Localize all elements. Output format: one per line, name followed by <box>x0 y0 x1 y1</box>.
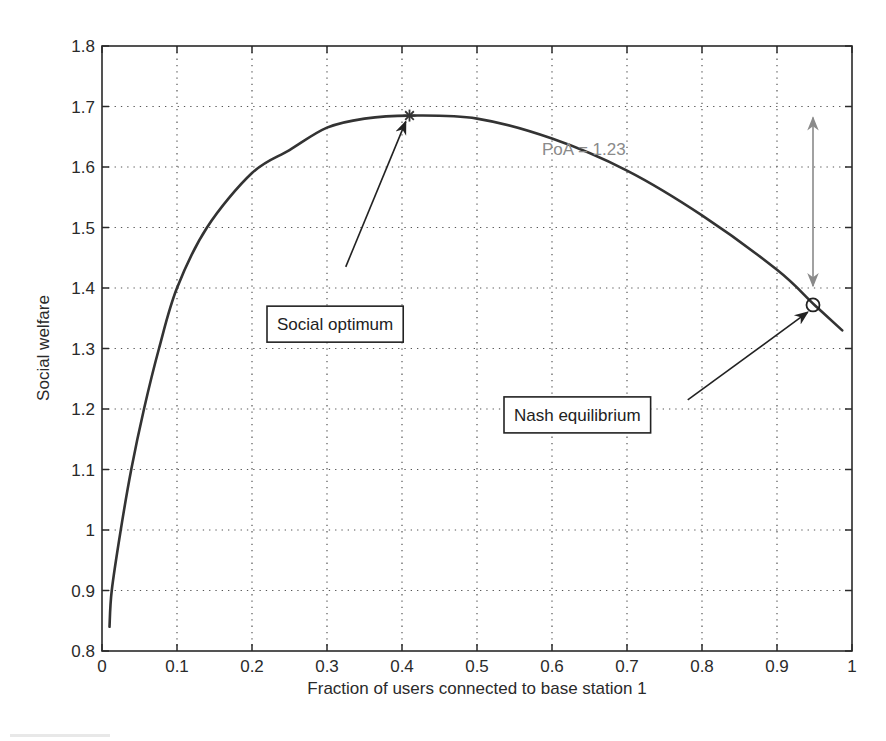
social-optimum-label: Social optimum <box>277 315 393 334</box>
y-tick-label: 1.1 <box>71 461 95 480</box>
x-tick-label: 0.6 <box>540 657 564 676</box>
y-tick-label: 1.5 <box>71 219 95 238</box>
x-tick-label: 0.2 <box>240 657 264 676</box>
y-tick-label: 1.4 <box>71 279 95 298</box>
y-tick-label: 1.2 <box>71 400 95 419</box>
y-tick-label: 0.9 <box>71 582 95 601</box>
annotation-arrow <box>346 122 406 267</box>
annotation-arrow <box>688 312 808 400</box>
y-tick-label: 1 <box>86 521 95 540</box>
x-tick-label: 0.1 <box>165 657 189 676</box>
data-series <box>110 116 843 627</box>
y-tick-label: 1.8 <box>71 37 95 56</box>
x-tick-label: 0.3 <box>315 657 339 676</box>
y-tick-label: 1.7 <box>71 98 95 117</box>
x-tick-label: 0.9 <box>765 657 789 676</box>
y-tick-labels: 0.80.911.11.21.31.41.51.61.71.8 <box>71 37 95 661</box>
x-tick-label: 0.8 <box>690 657 714 676</box>
y-axis-label: Social welfare <box>34 295 53 401</box>
x-tick-label: 0.5 <box>465 657 489 676</box>
x-tick-label: 0.7 <box>615 657 639 676</box>
x-tick-label: 0.4 <box>390 657 414 676</box>
grid-lines <box>102 46 852 651</box>
poa-label: PoA = 1.23 <box>542 140 626 159</box>
y-tick-label: 1.6 <box>71 158 95 177</box>
social-welfare-curve <box>110 116 843 627</box>
x-tick-label: 1 <box>847 657 856 676</box>
x-tick-labels: 00.10.20.30.40.50.60.70.80.91 <box>97 657 856 676</box>
x-axis-label: Fraction of users connected to base stat… <box>307 679 646 698</box>
annotations: Social optimumNash equilibriumPoA = 1.23 <box>267 118 813 433</box>
y-tick-label: 0.8 <box>71 642 95 661</box>
x-tick-label: 0 <box>97 657 106 676</box>
nash-equilibrium-label: Nash equilibrium <box>514 406 641 425</box>
y-tick-label: 1.3 <box>71 340 95 359</box>
chart: 00.10.20.30.40.50.60.70.80.91 0.80.911.1… <box>0 0 886 741</box>
caption-remnant <box>10 734 110 737</box>
